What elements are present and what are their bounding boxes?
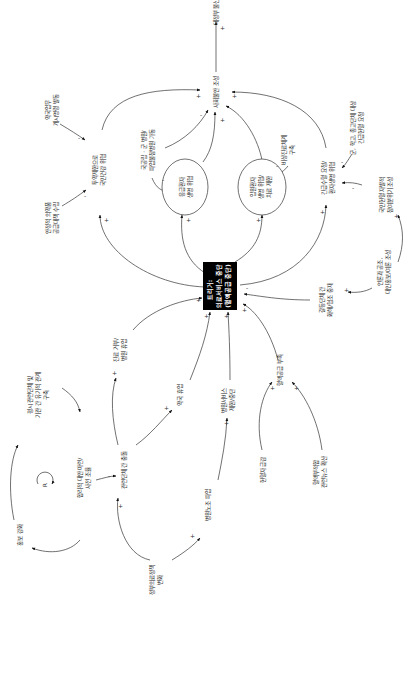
node-emergency-risk-1: 응급환자	[178, 177, 186, 197]
edge-network-plan	[62, 388, 80, 412]
node-policy-1: 정부의료정책	[148, 565, 156, 595]
node-drug-misuse-2: 국민건강 위협	[99, 154, 107, 186]
trigger-line-2: 의료서비스 중단	[215, 264, 223, 308]
sign-plus: +	[190, 532, 195, 539]
node-pharmacy: 약국 휴업	[176, 384, 184, 406]
sign-plus: +	[394, 212, 399, 219]
node-plan-2: 사전 조율	[84, 467, 92, 489]
node-social-anxiety: 사회불안 조성	[212, 76, 220, 108]
node-public-hospital-1: 국공립 · 군 병원/	[140, 130, 148, 169]
node-citizen-2: 참여분위기 조성	[386, 177, 394, 214]
sign-plus: +	[104, 216, 109, 223]
edge-service-trigger	[228, 312, 230, 380]
loop-label-r: R	[42, 483, 48, 487]
edge-emergency-anxiety	[203, 112, 215, 162]
node-inpatient-risk-1: 입원환자	[249, 177, 257, 197]
sign-minus: -	[276, 162, 278, 169]
sign-plus: +	[220, 116, 225, 123]
sign-plus: +	[118, 502, 123, 509]
node-emergency-system-2: 구축	[288, 145, 296, 155]
node-urgent-1: 긴급수혈 요청/	[320, 161, 328, 195]
node-scandal-2: 관련뉴스 확산	[320, 456, 328, 488]
node-inpatient-risk-3: 치료 제한	[265, 176, 273, 198]
edge-blood-trigger	[243, 304, 278, 360]
node-blood-ban: 헌혈자 급감	[259, 457, 267, 484]
node-media-2: 대인홍보/여론 조성	[384, 250, 392, 294]
edge-supply-drug	[62, 190, 86, 206]
sign-plus: +	[232, 92, 237, 99]
edge-plan-conflict	[96, 476, 116, 480]
node-emergency-system-1: 비상진료체계	[280, 135, 288, 165]
node-network-2: 기관 간 유기적 관계	[34, 372, 42, 417]
sign-plus: +	[224, 419, 229, 426]
node-citizen-1: 국민헌혈 자발적	[378, 177, 386, 214]
node-network-1: 평시 관련단체 및	[26, 376, 34, 415]
sign-plus: +	[320, 208, 325, 215]
node-service-1: 병원서비스	[220, 388, 228, 413]
sign-minus: -	[352, 184, 354, 191]
node-urgent-2: 환자생명 위협	[328, 162, 336, 194]
edge-trigger-urgent	[240, 205, 326, 285]
sign-plus: +	[294, 384, 299, 391]
node-refuse-1: 진료 거부/	[112, 338, 120, 362]
sign-plus: +	[196, 92, 201, 99]
node-plan-1: 합리적 대안 마련/	[76, 458, 84, 499]
sign-plus: +	[344, 286, 349, 293]
node-blood-shortage: 혈액공급 부족	[276, 354, 284, 386]
node-school-1: 군, 학교, 종교단체 대상	[349, 101, 357, 155]
sign-minus: -	[162, 176, 164, 183]
edge-media-dialogue	[348, 288, 372, 292]
sign-minus: -	[200, 111, 202, 118]
sign-plus: +	[112, 369, 117, 376]
sign-minus: -	[246, 284, 248, 291]
node-pr: 홍보 강화	[16, 524, 24, 546]
edge-school-urgent	[342, 154, 352, 168]
sign-plus: +	[186, 216, 191, 223]
node-school-2: 긴급헌혈 요청	[357, 112, 364, 144]
sign-plus: +	[242, 306, 247, 313]
edge-pr-network	[11, 445, 18, 520]
causal-loop-diagram: 트리거: 의료서비스 중단 (혈액공급 중단) 사회불안 조성 대정부 불신 투…	[0, 0, 406, 673]
loop-r-arrow	[37, 472, 53, 484]
sign-plus: +	[196, 296, 201, 303]
node-dialogue-1: 갈등단체 간	[318, 287, 326, 314]
trigger-line-1: 트리거:	[206, 280, 214, 300]
sign-plus: +	[224, 312, 229, 319]
node-emergency-risk-2: 생명 위협	[186, 176, 194, 198]
edge-conflict-refuse	[112, 378, 118, 445]
node-pharma-order-2: 개시명령 발동	[52, 94, 60, 126]
sign-plus: +	[270, 384, 275, 391]
node-circle-emergency	[162, 159, 208, 215]
node-media-1: 언론과 공조,	[376, 258, 384, 287]
sign-minus: -	[108, 472, 110, 479]
node-network-3: 구축	[42, 390, 50, 400]
node-gov-distrust: 대정부 불신	[212, 0, 220, 25]
node-public-hospital-2: 파업불참병원 가동	[148, 129, 156, 171]
node-scandal-1: 혈액부적합	[312, 460, 320, 485]
edge-inpatient-anxiety	[226, 106, 262, 160]
edge-trigger-emergency	[182, 215, 205, 273]
sign-minus: -	[341, 158, 343, 165]
node-dialogue-2: 화해/협조 중재	[326, 283, 334, 317]
edge-media-citizen	[398, 215, 403, 262]
node-union: 병원노조 파업	[204, 489, 212, 521]
sign-plus: +	[164, 404, 169, 411]
edge-scandal-shortage	[292, 382, 322, 450]
sign-plus: +	[204, 312, 209, 319]
edge-urgent-anxiety	[232, 92, 326, 148]
edge-drug-anxiety	[102, 90, 200, 130]
node-inpatient-risk-2: 생명 위협/	[257, 175, 265, 199]
edge-conflict-pharmacy	[136, 410, 172, 445]
edge-policy-union	[172, 538, 200, 560]
edge-refuse-trigger	[133, 298, 202, 330]
edge-ban-shortage	[259, 382, 272, 450]
edge-order-drug	[60, 124, 85, 140]
node-conflict: 관련단체 간 충돌	[120, 451, 128, 490]
node-pharma-order-1: 약국업무	[44, 100, 52, 120]
edge-dialogue-trigger	[244, 294, 310, 300]
node-stable-supply-2: 공급대책 수립	[52, 202, 60, 234]
edge-union-service	[218, 418, 227, 480]
sign-plus: +	[220, 24, 225, 31]
sign-minus: -	[78, 134, 80, 141]
node-stable-supply-1: 안정적 의약품	[44, 202, 52, 234]
